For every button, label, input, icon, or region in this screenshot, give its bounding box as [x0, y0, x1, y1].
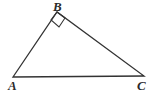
- vertex-label-c: C: [137, 79, 146, 92]
- right-triangle-diagram: [0, 0, 157, 95]
- vertex-label-a: A: [8, 79, 17, 92]
- right-angle-marker-icon: [51, 12, 65, 27]
- geometry-figure: A B C: [0, 0, 157, 95]
- triangle-abc-outline: [13, 12, 144, 77]
- vertex-label-b: B: [53, 0, 62, 13]
